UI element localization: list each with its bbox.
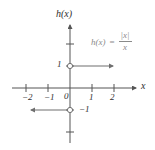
graph-canvas: [0, 0, 155, 150]
x-tick-label-minus2: −2: [22, 93, 33, 102]
origin-label: 0: [64, 92, 69, 101]
x-tick-label-minus1: −1: [44, 93, 55, 102]
equation-numerator: |x|: [119, 31, 132, 40]
open-point-0-1: [67, 63, 72, 68]
x-tick-label-2: 2: [110, 93, 115, 102]
function-graph-figure: h(x) x −2 −1 0 1 2 1 −1 h(x) = |x| x: [0, 0, 155, 150]
y-tick-label-1: 1: [57, 60, 62, 69]
equation-annotation: h(x) = |x| x: [91, 31, 132, 53]
equation-equals-sign: =: [109, 37, 116, 47]
equation-denominator: x: [121, 43, 129, 52]
open-point-0-minus1: [67, 107, 72, 112]
x-tick-label-1: 1: [89, 93, 94, 102]
y-axis-title: h(x): [56, 9, 72, 19]
x-axis-title: x: [141, 81, 145, 91]
y-tick-label-minus1: −1: [79, 105, 90, 114]
equation-lhs: h(x): [91, 37, 106, 47]
equation-fraction: |x| x: [119, 31, 132, 53]
